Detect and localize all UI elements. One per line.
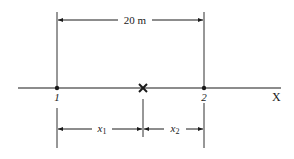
dimension-label-total: 20 m — [124, 14, 147, 26]
point-2-dot — [202, 86, 206, 90]
dimension-label-x2: x2 — [170, 122, 180, 136]
point-1-dot — [55, 86, 59, 90]
dimension-label-x1: x1 — [97, 122, 107, 136]
point-1-label: 1 — [54, 91, 60, 103]
diagram-svg: X 20 m 1 2 x1 x2 — [0, 0, 294, 159]
diagram-canvas: X 20 m 1 2 x1 x2 — [0, 0, 294, 159]
point-2-label: 2 — [201, 91, 207, 103]
x-axis-label: X — [272, 90, 281, 104]
